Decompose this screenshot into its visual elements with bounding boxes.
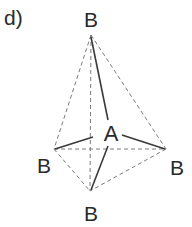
- atom-label-right: B: [170, 156, 184, 179]
- panel-label: d): [4, 6, 23, 29]
- atom-label-left: B: [37, 154, 51, 177]
- atom-label-top: B: [84, 8, 98, 31]
- tetrahedron-edges: [54, 35, 166, 191]
- tetrahedral-molecule-diagram: d) A B B B B: [0, 0, 192, 227]
- bonds: [55, 37, 165, 190]
- atom-label-bottom: B: [84, 202, 98, 225]
- atom-label-central: A: [104, 121, 119, 146]
